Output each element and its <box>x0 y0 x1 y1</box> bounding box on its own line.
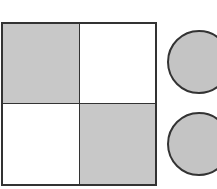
grid-cell-top-left-shaded <box>3 24 80 104</box>
shaded-circle-bottom <box>167 112 217 176</box>
grid-cell-bottom-right-shaded <box>80 104 155 184</box>
grid-cell-bottom-left-empty <box>3 104 80 184</box>
checkerboard-grid <box>1 22 157 186</box>
shaded-circle-top <box>167 30 217 94</box>
grid-cell-top-right-empty <box>80 24 155 104</box>
